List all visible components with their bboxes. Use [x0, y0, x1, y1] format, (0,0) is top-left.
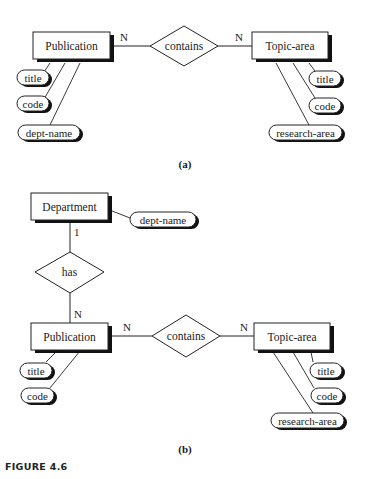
diagram-b: Department dept-name 1 has N Publication… [20, 193, 347, 456]
attribute-code[interactable]: code [17, 96, 52, 113]
attribute-label: title [316, 73, 333, 85]
attribute-code[interactable]: code [311, 388, 346, 405]
attribute-label: code [23, 98, 44, 110]
caption-a: (a) [179, 158, 192, 171]
attribute-label: research-area [278, 415, 337, 427]
figure-label: FIGURE 4.6 [5, 461, 67, 472]
entity-publication[interactable]: Publication [31, 323, 112, 353]
relationship-contains[interactable]: contains [152, 315, 220, 357]
cardinality-label: 1 [74, 226, 80, 238]
entity-topic-area[interactable]: Topic-area [252, 32, 332, 62]
attribute-label: title [27, 365, 44, 377]
er-diagram-canvas: Publication N contains N Topic-area titl… [0, 0, 370, 479]
relationship-label: contains [165, 40, 204, 52]
attribute-label: code [317, 390, 338, 402]
attribute-label: code [27, 390, 48, 402]
attribute-dept-name[interactable]: dept-name [130, 212, 199, 229]
relationship-label: contains [167, 330, 206, 342]
attribute-title[interactable]: title [20, 363, 55, 380]
cardinality-label: N [123, 321, 131, 333]
attribute-title[interactable]: title [310, 363, 345, 380]
attribute-title[interactable]: title [17, 70, 52, 87]
diagram-a: Publication N contains N Topic-area titl… [17, 26, 345, 171]
relationship-contains[interactable]: contains [150, 26, 218, 66]
caption-b: (b) [178, 443, 192, 456]
attribute-code[interactable]: code [21, 388, 57, 405]
attribute-research-area[interactable]: research-area [271, 413, 347, 430]
entity-topic-area[interactable]: Topic-area [254, 323, 334, 353]
attribute-label: title [24, 72, 41, 84]
attribute-label: research-area [276, 127, 335, 139]
entity-label: Publication [43, 331, 96, 343]
cardinality-label: N [74, 308, 82, 320]
attribute-label: dept-name [140, 214, 187, 226]
attribute-label: title [317, 365, 334, 377]
cardinality-label: N [240, 321, 248, 333]
relationship-label: has [62, 266, 78, 278]
entity-label: Publication [45, 40, 98, 52]
attribute-label: dept-name [26, 127, 73, 139]
entity-department[interactable]: Department [31, 193, 112, 223]
cardinality-label: N [120, 31, 128, 43]
entity-label: Department [42, 201, 97, 214]
attribute-title[interactable]: title [309, 71, 344, 88]
attribute-research-area[interactable]: research-area [269, 125, 345, 142]
relationship-has[interactable]: has [35, 252, 104, 293]
attribute-label: code [315, 100, 336, 112]
attribute-code[interactable]: code [309, 98, 344, 115]
cardinality-label: N [235, 31, 243, 43]
attribute-dept-name[interactable]: dept-name [18, 125, 83, 142]
entity-publication[interactable]: Publication [33, 32, 114, 62]
entity-label: Topic-area [266, 40, 315, 53]
entity-label: Topic-area [268, 331, 317, 344]
